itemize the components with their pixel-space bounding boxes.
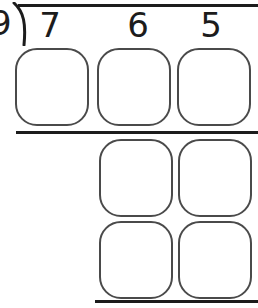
long-division-worksheet: 9 7 6 5	[0, 0, 258, 308]
divisor-digit: 9	[0, 4, 12, 42]
division-bracket-icon	[12, 2, 30, 46]
answer-box-r2c1[interactable]	[178, 221, 252, 299]
dividend-digit-1: 6	[121, 6, 155, 44]
answer-box-r0c0[interactable]	[15, 48, 89, 126]
answer-box-r0c1[interactable]	[97, 48, 171, 126]
answer-box-r1c1[interactable]	[178, 139, 252, 217]
answer-box-r1c0[interactable]	[99, 139, 173, 217]
answer-box-r0c2[interactable]	[177, 48, 251, 126]
dividend-digit-0: 7	[33, 6, 67, 44]
dividend-digit-2: 5	[194, 6, 228, 44]
subtraction-rule-2	[95, 300, 258, 303]
subtraction-rule-1	[16, 131, 258, 134]
answer-box-r2c0[interactable]	[99, 221, 173, 299]
